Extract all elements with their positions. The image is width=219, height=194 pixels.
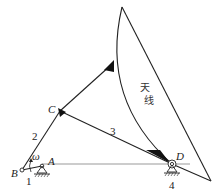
pivot-b [20,168,24,172]
link-c-upper [60,65,111,111]
label-link-2: 2 [32,130,38,142]
ground-support-d [164,160,180,176]
label-link-3: 3 [110,125,116,137]
link-1 [22,166,42,170]
link-3 [60,111,172,164]
label-link-1: 1 [26,175,32,187]
antenna-label-1: 天 [140,82,150,93]
label-link-4: 4 [169,179,175,191]
antenna-base-edge [172,164,211,181]
label-b: B [11,167,18,179]
label-a: A [47,155,55,167]
label-c: C [48,103,56,115]
antenna-label-2: 线 [144,94,154,106]
linkage-diagram: C B A D ω 2 3 1 4 天 线 [0,0,219,194]
label-d: D [175,150,184,162]
label-omega: ω [32,150,40,162]
antenna-edge [122,7,211,181]
upper-gusset [104,60,114,72]
